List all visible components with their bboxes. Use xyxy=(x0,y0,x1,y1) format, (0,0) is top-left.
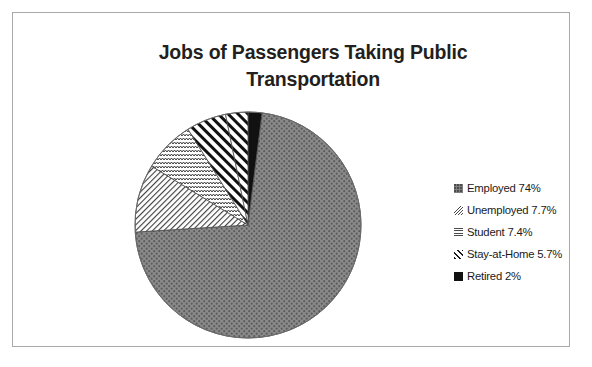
retired-swatch-icon xyxy=(454,272,463,281)
legend-label-employed: Employed 74% xyxy=(467,182,541,194)
legend-label-student: Student 7.4% xyxy=(467,226,532,238)
legend-label-unemployed: Unemployed 7.7% xyxy=(467,204,556,216)
chart-title-line-1: Jobs of Passengers Taking Public xyxy=(133,39,493,66)
page-title: Jobs of Passengers Taking Public Transpo… xyxy=(133,39,493,93)
chart-legend: Employed 74% Unemployed 7.7% Student 7.4… xyxy=(454,177,584,287)
chart-title-line-2: Transportation xyxy=(133,66,493,93)
pie-plot-area xyxy=(123,105,373,350)
unemployed-swatch-icon xyxy=(454,206,463,215)
legend-label-stay-at-home: Stay-at-Home 5.7% xyxy=(467,248,562,260)
legend-item-employed[interactable]: Employed 74% xyxy=(454,177,584,199)
pie-chart-svg xyxy=(123,105,373,350)
legend-item-unemployed[interactable]: Unemployed 7.7% xyxy=(454,199,584,221)
legend-item-stay-at-home[interactable]: Stay-at-Home 5.7% xyxy=(454,243,584,265)
legend-item-student[interactable]: Student 7.4% xyxy=(454,221,584,243)
legend-item-retired[interactable]: Retired 2% xyxy=(454,265,584,287)
stay-at-home-swatch-icon xyxy=(454,250,463,259)
employed-swatch-icon xyxy=(454,184,463,193)
legend-label-retired: Retired 2% xyxy=(467,270,521,282)
chart-frame: Jobs of Passengers Taking Public Transpo… xyxy=(12,12,570,347)
chart-screenshot: Jobs of Passengers Taking Public Transpo… xyxy=(0,0,592,367)
student-swatch-icon xyxy=(454,228,463,237)
